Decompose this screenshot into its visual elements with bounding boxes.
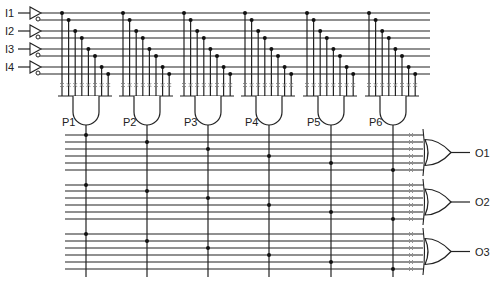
connection-dot (338, 54, 342, 58)
connection-dot (206, 196, 210, 200)
and-gate-icon (380, 96, 406, 125)
inverter-bubble-icon (36, 17, 40, 21)
connection-dot (161, 65, 165, 69)
connection-dot (121, 11, 125, 15)
and-gate-icon (73, 96, 99, 125)
connection-dot (391, 267, 395, 271)
connection-dot (312, 18, 316, 22)
connection-dot (380, 29, 384, 33)
connection-dot (267, 253, 271, 257)
connection-dot (367, 11, 371, 15)
or-input-bar (423, 129, 425, 176)
or-gate-icon (425, 140, 451, 166)
connection-dot (263, 36, 267, 40)
or-gate-icon (425, 189, 451, 215)
connection-dot (256, 29, 260, 33)
connection-dot (329, 260, 333, 264)
connection-dot (325, 36, 329, 40)
connection-dot (100, 65, 104, 69)
connection-dot (145, 140, 149, 144)
connection-dot (84, 133, 88, 137)
connection-dot (318, 29, 322, 33)
output-label-o1: O1 (475, 147, 490, 159)
connection-dot (73, 29, 77, 33)
input-label-i4: I4 (5, 61, 14, 73)
and-gate-icon (134, 96, 160, 125)
and-gate-icon (318, 96, 344, 125)
product-label-p2: P2 (123, 116, 136, 128)
connection-dot (329, 161, 333, 165)
connection-dot (215, 54, 219, 58)
connection-dot (374, 18, 378, 22)
connection-dot (267, 154, 271, 158)
product-label-p1: P1 (62, 116, 75, 128)
input-label-i3: I3 (5, 43, 14, 55)
input-label-i2: I2 (5, 25, 14, 37)
connection-dot (387, 36, 391, 40)
product-label-p5: P5 (307, 116, 320, 128)
connection-dot (206, 246, 210, 250)
connection-dot (391, 217, 395, 221)
connection-dot (208, 47, 212, 51)
or-input-bar (423, 228, 425, 275)
input-label-i1: I1 (5, 7, 14, 19)
connection-dot (305, 11, 309, 15)
connection-dot (195, 29, 199, 33)
connection-dot (250, 18, 254, 22)
connection-dot (391, 168, 395, 172)
and-gate-icon (195, 96, 221, 125)
connection-dot (289, 72, 293, 76)
connection-dot (182, 11, 186, 15)
inverter-bubble-icon (36, 53, 40, 57)
connection-dot (67, 18, 71, 22)
connection-dot (134, 29, 138, 33)
inverter-bubble-icon (36, 35, 40, 39)
connection-dot (393, 47, 397, 51)
connection-dot (60, 11, 64, 15)
connection-dot (141, 36, 145, 40)
inverter-bubble-icon (36, 71, 40, 75)
or-gate-icon (425, 239, 451, 265)
connection-dot (167, 72, 171, 76)
connection-dot (407, 65, 411, 69)
connection-dot (276, 54, 280, 58)
pla-diagram: I1I2I3I4P1P2P3P4P5P6O1O2O3 (0, 0, 499, 286)
connection-dot (351, 72, 355, 76)
connection-dot (106, 72, 110, 76)
connection-dot (331, 47, 335, 51)
connection-dot (206, 147, 210, 151)
connection-dot (145, 189, 149, 193)
product-label-p6: P6 (369, 116, 382, 128)
connection-dot (267, 203, 271, 207)
connection-dot (283, 65, 287, 69)
connection-dot (345, 65, 349, 69)
connection-dot (128, 18, 132, 22)
connection-dot (222, 65, 226, 69)
connection-dot (147, 47, 151, 51)
connection-dot (93, 54, 97, 58)
connection-dot (84, 232, 88, 236)
connection-dot (84, 183, 88, 187)
connection-dot (243, 11, 247, 15)
connection-dot (202, 36, 206, 40)
connection-dot (228, 72, 232, 76)
connection-dot (413, 72, 417, 76)
connection-dot (269, 47, 273, 51)
connection-dot (154, 54, 158, 58)
connection-dot (400, 54, 404, 58)
or-input-bar (423, 179, 425, 225)
connection-dot (86, 47, 90, 51)
connection-dot (329, 210, 333, 214)
product-label-p3: P3 (184, 116, 197, 128)
output-label-o3: O3 (475, 246, 490, 258)
product-label-p4: P4 (245, 116, 258, 128)
connection-dot (189, 18, 193, 22)
connection-dot (145, 239, 149, 243)
and-gate-icon (256, 96, 282, 125)
output-label-o2: O2 (475, 196, 490, 208)
connection-dot (80, 36, 84, 40)
